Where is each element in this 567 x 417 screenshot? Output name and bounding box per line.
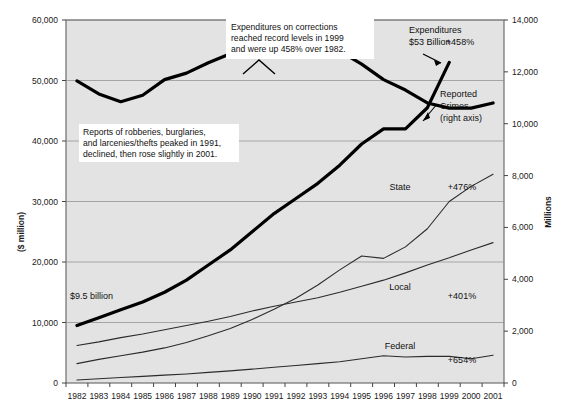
- x-axis-tick-label: 1985: [133, 391, 152, 401]
- x-axis-tick-label: 1988: [199, 391, 218, 401]
- x-axis-tick-label: 1992: [286, 391, 305, 401]
- y-axis-left-tick-label: 60,000: [32, 15, 58, 25]
- y-axis-right-tick-label: 14,000: [512, 15, 538, 25]
- series-pct-local: +401%: [448, 291, 476, 301]
- y-axis-right-tick-label: 2,000: [512, 326, 534, 336]
- x-axis-tick-label: 1982: [67, 391, 86, 401]
- x-axis-tick-label: 1993: [308, 391, 327, 401]
- x-axis-tick-label: 1996: [374, 391, 393, 401]
- y-axis-right-title: Millions: [543, 196, 553, 228]
- y-axis-left-tick-label: 40,000: [32, 136, 58, 146]
- x-axis-tick-label: 1991: [265, 391, 284, 401]
- series-label-state: State: [389, 182, 410, 192]
- x-axis-tick-label: 1983: [89, 391, 108, 401]
- y-axis-left-tick-label: 10,000: [32, 318, 58, 328]
- annotation-reported-crimes-line-3: (right axis): [440, 113, 482, 123]
- annotation-corrections-line-2: reached record levels in 1999: [231, 33, 344, 43]
- annotation-start-value-label: $9.5 billion: [70, 291, 113, 301]
- annotation-expenditures-line-2: $53 Billion: [409, 37, 451, 47]
- annotation-reported-crimes-line-1: Reported: [440, 89, 477, 99]
- series-label-federal: Federal: [385, 341, 416, 351]
- y-axis-left-tick-label: 30,000: [32, 197, 58, 207]
- annotation-corrections-line-1: Expenditures on corrections: [231, 22, 338, 32]
- annotation-crime-peak-line-1: Reports of robberies, burglaries,: [83, 127, 206, 137]
- x-axis-tick-label: 1998: [418, 391, 437, 401]
- y-axis-right-tick-label: 10,000: [512, 119, 538, 129]
- annotation-crime-peak-line-3: declined, then rose slightly in 2001.: [83, 149, 217, 159]
- x-axis-tick-label: 1990: [243, 391, 262, 401]
- y-axis-left-tick-label: 20,000: [32, 257, 58, 267]
- series-pct-federal: +654%: [448, 355, 476, 365]
- x-axis-tick-label: 1995: [352, 391, 371, 401]
- x-axis-tick-label: 1986: [155, 391, 174, 401]
- annotation-expenditures-line-1: Expenditures: [409, 25, 462, 35]
- x-axis-tick-label: 1989: [221, 391, 240, 401]
- x-axis-tick-label: 2001: [484, 391, 503, 401]
- series-label-local: Local: [389, 282, 411, 292]
- chart-container: 1982198319841985198619871988198919901991…: [0, 0, 567, 417]
- x-axis-tick-label: 1984: [111, 391, 130, 401]
- expenditures-vs-crimes-line-chart: 1982198319841985198619871988198919901991…: [0, 0, 567, 417]
- total-pct-label: +458%: [446, 37, 474, 47]
- y-axis-left-title: ($ million): [16, 212, 26, 252]
- series-pct-state: +476%: [448, 182, 476, 192]
- y-axis-right-tick-label: 8,000: [512, 171, 534, 181]
- y-axis-right-tick-label: 12,000: [512, 67, 538, 77]
- y-axis-right-tick-label: 4,000: [512, 274, 534, 284]
- x-axis-tick-label: 1999: [440, 391, 459, 401]
- y-axis-left-tick-label: 0: [53, 378, 58, 388]
- x-axis-tick-label: 2000: [462, 391, 481, 401]
- annotation-crime-peak-line-2: and larcenies/thefts peaked in 1991,: [83, 138, 221, 148]
- y-axis-left-tick-label: 50,000: [32, 76, 58, 86]
- x-axis-tick-label: 1994: [330, 391, 349, 401]
- x-axis-tick-label: 1997: [396, 391, 415, 401]
- y-axis-right-tick-label: 0: [512, 378, 517, 388]
- annotation-corrections-line-3: and were up 458% over 1982.: [231, 44, 346, 54]
- x-axis-tick-label: 1987: [177, 391, 196, 401]
- annotation-reported-crimes-line-2: Crimes: [440, 101, 469, 111]
- x-axis-ticks: [66, 383, 504, 387]
- y-axis-right-tick-label: 6,000: [512, 222, 534, 232]
